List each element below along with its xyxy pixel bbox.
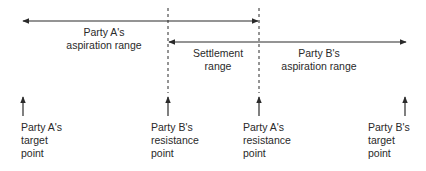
label-line: Party B's xyxy=(281,47,356,60)
label-line: target xyxy=(368,134,410,147)
settlement-range-label: Settlement range xyxy=(193,47,243,73)
label-line: range xyxy=(193,60,243,73)
party-a-target-point-label: Party A's target point xyxy=(21,121,62,160)
label-line: Settlement xyxy=(193,47,243,60)
label-line: resistance xyxy=(151,134,199,147)
negotiation-range-diagram xyxy=(0,0,426,171)
party-a-aspiration-range-label: Party A's aspiration range xyxy=(66,26,141,52)
label-line: Party B's xyxy=(151,121,199,134)
label-line: target xyxy=(21,134,62,147)
party-b-resistance-point-label: Party B's resistance point xyxy=(151,121,199,160)
label-line: point xyxy=(368,147,410,160)
label-line: point xyxy=(243,147,291,160)
party-b-target-point-label: Party B's target point xyxy=(368,121,410,160)
label-line: aspiration range xyxy=(281,60,356,73)
party-b-aspiration-range-label: Party B's aspiration range xyxy=(281,47,356,73)
label-line: resistance xyxy=(243,134,291,147)
label-line: Party B's xyxy=(368,121,410,134)
party-a-resistance-point-label: Party A's resistance point xyxy=(243,121,291,160)
label-line: Party A's xyxy=(243,121,291,134)
label-line: point xyxy=(21,147,62,160)
label-line: aspiration range xyxy=(66,39,141,52)
label-line: Party A's xyxy=(21,121,62,134)
label-line: point xyxy=(151,147,199,160)
label-line: Party A's xyxy=(66,26,141,39)
